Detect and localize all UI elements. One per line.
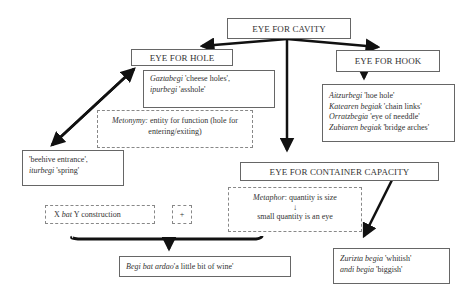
beehive-box: 'beehive entrance', iturbegi 'spring'	[22, 150, 124, 186]
construction-rest: Y construction	[72, 210, 121, 219]
metaphor-text: : quantity is size	[285, 193, 337, 202]
gloss: 'asshole'	[177, 85, 205, 94]
node-eye-for-hook: EYE FOR HOOK	[336, 50, 440, 72]
construction-bat: bat	[62, 210, 72, 219]
metaphor-label: Metaphor	[253, 193, 285, 202]
term: iturbegi	[29, 166, 54, 175]
term: Begi bat ardao	[126, 262, 174, 271]
node-eye-for-container-capacity: EYE FOR CONTAINER CAPACITY	[240, 162, 439, 181]
gloss: 'hoe hole'	[362, 91, 394, 100]
gloss: 'biggish'	[374, 265, 402, 274]
metonymy-text: entity for function (hole for	[148, 116, 238, 125]
plus-icon: +	[180, 210, 185, 219]
beehive-line-1: 'beehive entrance',	[29, 155, 117, 166]
construction-box: X bat Y construction	[45, 205, 155, 224]
gloss: 'a little bit of wine'	[174, 262, 234, 271]
gloss: 'whitish'	[383, 254, 411, 263]
term: Zubiaren begiak	[329, 123, 381, 132]
size-examples-box: Zurizta begia 'whitish' andi begia 'bigg…	[333, 248, 450, 284]
plus-box: +	[172, 205, 192, 224]
metonymy-text-2: entering/exiting)	[104, 127, 246, 138]
gloss: 'eye of needdle'	[368, 112, 420, 121]
metonymy-box: Metonymy: entity for function (hole for …	[97, 110, 253, 148]
down-arrow-icon: ↓	[235, 204, 355, 212]
term: ipurbegi	[150, 85, 177, 94]
term: Orratzbegia	[329, 112, 368, 121]
node-eye-for-hole: EYE FOR HOLE	[131, 49, 233, 66]
term: andi begia	[340, 265, 374, 274]
term: Aitzurbegi	[329, 91, 362, 100]
gloss: 'cheese holes',	[183, 74, 230, 83]
node-title: EYE FOR CONTAINER CAPACITY	[270, 167, 410, 177]
hook-examples-box: Aitzurbegi 'hoe hole' Katearen begiak 'c…	[322, 84, 455, 142]
wine-box: Begi bat ardao'a little bit of wine'	[119, 256, 291, 277]
node-title: EYE FOR HOOK	[355, 56, 422, 66]
metonymy-label: Metonymy:	[112, 116, 148, 125]
gloss: 'spring'	[54, 166, 79, 175]
gloss: 'chain links'	[382, 102, 422, 111]
term: Gaztabegi	[150, 74, 183, 83]
node-title: EYE FOR HOLE	[150, 53, 215, 63]
hole-examples-box: Gaztabegi 'cheese holes', ipurbegi 'assh…	[143, 70, 275, 108]
node-title: EYE FOR CAVITY	[252, 24, 326, 34]
metaphor-text-2: small quantity is an eye	[235, 212, 355, 223]
gloss: 'bridge arches'	[381, 123, 429, 132]
construction-x: X	[54, 210, 62, 219]
metaphor-box: Metaphor: quantity is size ↓ small quant…	[228, 187, 362, 232]
term: Katearen begiak	[329, 102, 382, 111]
node-eye-for-cavity: EYE FOR CAVITY	[227, 18, 351, 39]
term: Zurizta begia	[340, 254, 383, 263]
